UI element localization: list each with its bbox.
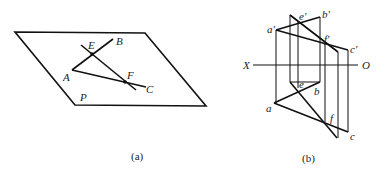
label-f-top: f: [330, 112, 335, 124]
label-e-prime: e': [299, 10, 307, 22]
label-a: A: [62, 71, 70, 83]
label-f-prime: f': [324, 33, 330, 45]
label-a-top: a: [266, 102, 272, 114]
axis-label-x: X: [242, 59, 251, 71]
caption-b: (b): [302, 152, 315, 165]
axis-label-o: O: [362, 59, 370, 71]
label-f: F: [126, 69, 134, 81]
label-c-top: c: [350, 130, 355, 142]
front-ac: [276, 30, 348, 50]
caption-a: (a): [131, 150, 144, 163]
label-a-prime: a': [267, 23, 276, 35]
label-e: E: [87, 39, 95, 51]
line-ac: [72, 70, 146, 87]
point-e: [90, 52, 94, 56]
line-ef: [81, 45, 136, 90]
label-b-prime: b': [322, 8, 331, 20]
label-b-top: b: [314, 85, 320, 97]
label-e-top: e: [299, 78, 304, 90]
diagram-canvas: A B C E F P (a) X O a' b' c' e' f: [0, 0, 387, 176]
label-c: C: [146, 83, 154, 95]
label-c-prime: c': [350, 43, 358, 55]
label-p: P: [79, 91, 87, 103]
label-b: B: [116, 35, 123, 47]
figure-a: A B C E F P (a): [15, 32, 206, 163]
front-ef: [290, 15, 338, 52]
figure-b: X O a' b' c' e' f' a b c e f (b): [242, 8, 370, 165]
